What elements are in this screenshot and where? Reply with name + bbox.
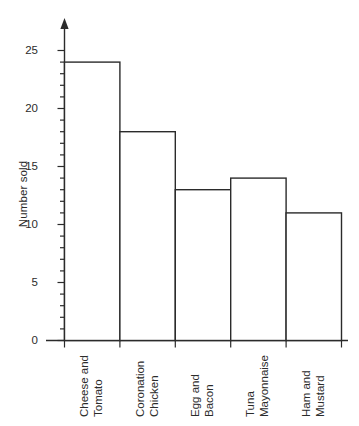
y-axis-ticks	[58, 51, 65, 341]
bar	[231, 178, 286, 340]
x-category-label-line: Mayonnaise	[258, 325, 272, 417]
x-category-label: Ham andMustard	[300, 325, 327, 417]
x-category-label: CoronationChicken	[134, 325, 161, 417]
x-category-label-line: Egg and	[189, 374, 201, 417]
x-category-label-line: Cheese and	[78, 354, 90, 416]
x-category-label-line: Tomato	[92, 325, 106, 417]
x-category-label-line: Ham and	[300, 370, 312, 417]
bar	[65, 62, 120, 340]
x-category-label-line: Mustard	[313, 325, 327, 417]
x-category-label-line: Chicken	[147, 325, 161, 417]
x-category-label: Cheese andTomato	[78, 325, 105, 417]
bar	[120, 132, 175, 341]
bars	[65, 62, 342, 340]
x-category-label: Egg andBacon	[189, 325, 216, 417]
x-category-label: TunaMayonnaise	[244, 325, 271, 417]
bar-chart: Number sold 0510152025 Cheese andTomatoC…	[0, 0, 359, 426]
x-category-label-line: Tuna	[244, 391, 256, 417]
x-category-label-line: Bacon	[203, 325, 217, 417]
y-axis-arrow-icon	[60, 18, 68, 29]
x-category-label-line: Coronation	[134, 360, 146, 416]
bar	[175, 190, 230, 341]
bar	[286, 213, 341, 341]
